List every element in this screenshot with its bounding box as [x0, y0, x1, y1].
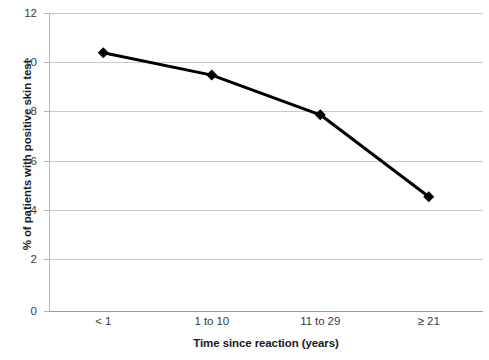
x-tick-label-1to10: 1 to 10: [157, 315, 267, 327]
gridline-4: [49, 210, 483, 211]
y-tick-label-2: 2: [0, 253, 37, 265]
y-tick-mark-8: [44, 111, 49, 112]
gridline-12: [49, 13, 483, 14]
y-tick-label-6: 6: [0, 155, 37, 167]
y-tick-mark-6: [44, 161, 49, 162]
y-tick-label-4: 4: [0, 204, 37, 216]
y-tick-mark-12: [44, 13, 49, 14]
x-axis-line: [49, 311, 483, 312]
y-tick-mark-4: [44, 210, 49, 211]
y-tick-mark-10: [44, 62, 49, 63]
y-tick-mark-0: [44, 311, 49, 312]
y-tick-label-10: 10: [0, 56, 37, 68]
plot-area: [49, 13, 483, 311]
gridline-10: [49, 62, 483, 63]
gridline-8: [49, 111, 483, 112]
line-chart: % of patients with positive skin test 12…: [0, 0, 489, 360]
x-axis-title: Time since reaction (years): [49, 337, 483, 349]
y-tick-label-12: 12: [0, 7, 37, 19]
y-tick-label-0: 0: [0, 305, 37, 317]
gridline-6: [49, 161, 483, 162]
x-tick-label-lt1: < 1: [48, 315, 158, 327]
y-tick-label-8: 8: [0, 105, 37, 117]
x-tick-label-gte21: ≥ 21: [374, 315, 484, 327]
x-tick-label-11to29: 11 to 29: [265, 315, 375, 327]
y-axis-line: [49, 13, 50, 312]
y-tick-mark-2: [44, 259, 49, 260]
gridline-2: [49, 259, 483, 260]
